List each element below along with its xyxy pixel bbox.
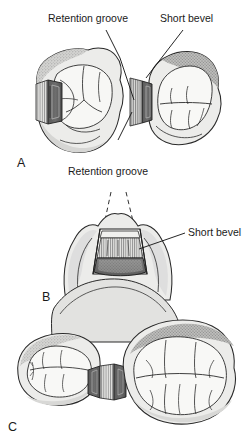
panel-c-right-molar — [123, 320, 235, 424]
panel-letter-b: B — [42, 290, 50, 304]
panel-a-right-molar — [130, 52, 221, 145]
panel-letter-c: C — [8, 420, 17, 434]
right-molar-proximal-box — [130, 78, 152, 126]
figure-dental-inlay-preparation: Retention groove Short bevel Retention g… — [0, 0, 251, 443]
panel-c-left-molar — [18, 334, 100, 406]
left-bevel-hatch-band — [36, 80, 48, 124]
panel-b-floor-texture — [98, 260, 143, 273]
panel-a-left-molar — [36, 48, 123, 153]
label-short-bevel-top: Short bevel — [160, 13, 213, 24]
panel-b-illustration — [52, 192, 186, 342]
panel-c-left-table — [27, 346, 91, 397]
panel-a-illustration — [36, 30, 221, 153]
panel-c-left-dark-wall — [88, 366, 100, 398]
label-retention-groove-bottom: Retention groove — [68, 166, 148, 177]
panel-b-cavity-preparation — [93, 229, 147, 276]
panel-b-short-bevel-band — [100, 231, 140, 238]
panel-c-hatch-band — [100, 364, 114, 400]
panel-b-axial-wall-hatch — [97, 238, 143, 258]
right-bevel-hatch-band — [130, 78, 142, 126]
panel-c-proximal-restoration — [88, 364, 126, 400]
label-short-bevel-mid: Short bevel — [188, 227, 241, 238]
right-box-dark-wall — [142, 81, 152, 123]
figure-canvas — [0, 0, 251, 443]
panel-letter-a: A — [17, 156, 25, 170]
label-retention-groove-top: Retention groove — [48, 13, 128, 24]
left-molar-proximal-box — [36, 80, 62, 124]
